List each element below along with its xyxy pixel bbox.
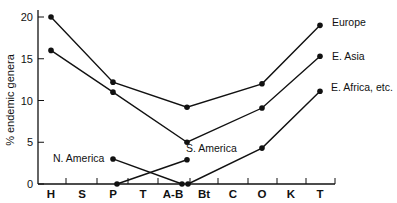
x-tick-label: P	[109, 188, 117, 200]
y-tick-label: 5	[27, 136, 33, 148]
x-tick-label: S	[78, 188, 86, 200]
data-point	[259, 105, 265, 111]
data-point	[317, 53, 323, 59]
x-tick-label: C	[229, 188, 237, 200]
label-e-asia: E. Asia	[332, 50, 365, 62]
data-point	[48, 14, 54, 20]
x-tick-label: T	[316, 188, 323, 200]
y-tick-label: 15	[21, 53, 33, 65]
series-line	[113, 159, 182, 184]
series-line	[188, 91, 320, 184]
data-point	[184, 157, 190, 163]
series-line	[117, 160, 187, 184]
y-tick-label: 20	[21, 11, 33, 23]
data-point	[317, 89, 323, 95]
data-point	[114, 181, 120, 187]
x-tick-label: H	[47, 188, 55, 200]
data-point	[179, 181, 185, 187]
chart-container: 05101520 HSPTA-BBtCOKT % endemic genera …	[0, 0, 397, 203]
y-axis-label: % endemic genera	[4, 53, 16, 146]
x-tick-label: T	[139, 188, 146, 200]
data-point	[110, 156, 116, 162]
series-line	[51, 50, 320, 142]
data-point	[110, 89, 116, 95]
label-e-africa: E. Africa, etc.	[331, 81, 393, 93]
label-n-america: N. America	[53, 152, 105, 164]
label-s-america: S. America	[186, 142, 237, 154]
x-tick-label: A-B	[163, 188, 183, 200]
label-europe: Europe	[332, 16, 366, 28]
x-tick-label: K	[287, 188, 296, 200]
data-point	[317, 23, 323, 29]
x-tick-label: O	[258, 188, 267, 200]
x-tick-label: Bt	[198, 188, 210, 200]
y-tick-label: 10	[21, 95, 33, 107]
y-tick-label: 0	[27, 178, 33, 190]
series-line	[51, 17, 320, 107]
data-point	[259, 81, 265, 87]
data-point	[259, 145, 265, 151]
data-point	[48, 48, 54, 54]
data-point	[185, 181, 191, 187]
data-point	[110, 79, 116, 85]
line-chart: 05101520 HSPTA-BBtCOKT % endemic genera …	[0, 0, 397, 203]
data-point	[184, 104, 190, 110]
